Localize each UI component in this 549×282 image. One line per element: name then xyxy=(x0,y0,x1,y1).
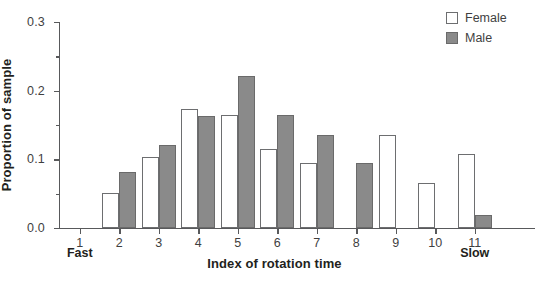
y-tick-minor xyxy=(56,56,60,57)
x-tick-label: 3 xyxy=(155,236,162,250)
x-tick xyxy=(277,228,278,234)
y-tick-label: 0.0 xyxy=(27,221,45,235)
y-tick-major: 0.1 xyxy=(54,159,60,160)
y-tick-major: 0.0 xyxy=(54,228,60,229)
y-axis-title: Proportion of sample xyxy=(0,59,14,192)
bar-male-4 xyxy=(198,116,215,228)
y-tick-label: 0.1 xyxy=(27,152,45,166)
bar-male-3 xyxy=(159,145,176,228)
x-tick-label: 4 xyxy=(195,236,202,250)
plot-area: 0.00.10.20.3 1234567891011 xyxy=(60,22,534,228)
y-tick-major: 0.3 xyxy=(54,22,60,23)
x-tick-label: 1 xyxy=(76,236,83,250)
legend-label: Male xyxy=(465,31,492,45)
bar-female-5 xyxy=(221,115,238,228)
bar-male-11 xyxy=(475,215,492,228)
bar-female-4 xyxy=(181,109,198,228)
x-tick-label: 2 xyxy=(116,236,123,250)
chart-legend: FemaleMale xyxy=(446,9,507,49)
x-tick xyxy=(317,228,318,234)
legend-item: Male xyxy=(446,29,507,46)
bar-female-6 xyxy=(260,149,277,228)
legend-label: Female xyxy=(465,11,507,25)
bar-female-2 xyxy=(102,193,119,228)
x-tick xyxy=(159,228,160,234)
x-tick-label: 11 xyxy=(468,236,481,250)
bar-male-5 xyxy=(238,76,255,228)
legend-swatch-female xyxy=(446,12,458,24)
bar-male-8 xyxy=(356,163,373,228)
y-tick-minor xyxy=(56,125,60,126)
bar-female-10 xyxy=(418,183,435,228)
legend-swatch-male xyxy=(446,32,458,44)
bar-female-3 xyxy=(142,157,159,228)
x-tick xyxy=(435,228,436,234)
y-tick-minor xyxy=(56,194,60,195)
bar-male-7 xyxy=(317,135,334,228)
bar-male-6 xyxy=(277,115,294,228)
x-tick xyxy=(80,228,81,234)
x-tick-label: 5 xyxy=(234,236,241,250)
bar-male-2 xyxy=(119,172,136,228)
x-tick xyxy=(119,228,120,234)
x-axis-line xyxy=(59,228,535,229)
bar-female-9 xyxy=(379,135,396,228)
x-tick xyxy=(475,228,476,234)
x-tick xyxy=(396,228,397,234)
bar-female-7 xyxy=(300,163,317,228)
x-tick xyxy=(198,228,199,234)
x-tick-label: 6 xyxy=(274,236,281,250)
x-tick xyxy=(238,228,239,234)
x-tick xyxy=(356,228,357,234)
y-tick-label: 0.3 xyxy=(27,15,45,29)
x-tick-label: 7 xyxy=(313,236,320,250)
x-tick-label: 9 xyxy=(392,236,399,250)
y-tick-label: 0.2 xyxy=(27,84,45,98)
legend-item: Female xyxy=(446,9,507,26)
y-tick-major: 0.2 xyxy=(54,91,60,92)
x-tick-label: 10 xyxy=(428,236,442,250)
bar-female-11 xyxy=(458,154,475,228)
chart-figure: Proportion of sample Index of rotation t… xyxy=(0,0,549,282)
x-tick-label: 8 xyxy=(353,236,360,250)
